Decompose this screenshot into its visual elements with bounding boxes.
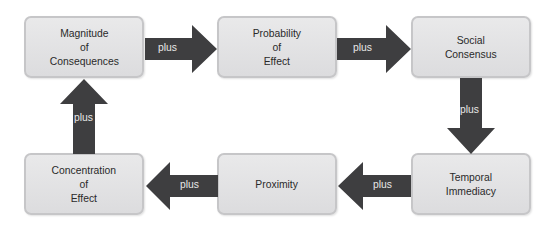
arrow-up-icon: plus <box>60 79 108 154</box>
arrow-left-icon: plus <box>338 162 411 210</box>
node-label: Proximity <box>256 177 299 191</box>
edge-label: plus <box>180 178 199 190</box>
arrow-right-icon: plus <box>337 25 411 73</box>
arrow-down-icon: plus <box>447 78 495 154</box>
node-temporal-immediacy: Temporal Immediacy <box>411 153 531 215</box>
edge-label: plus <box>158 41 177 53</box>
node-label: Social Consensus <box>445 33 497 61</box>
arrow-right-icon: plus <box>145 25 217 73</box>
edge-label: plus <box>353 41 372 53</box>
node-label: Magnitude of Consequences <box>49 26 118 68</box>
node-social-consensus: Social Consensus <box>411 16 531 78</box>
node-label: Probability of Effect <box>253 26 301 68</box>
edge-label: plus <box>74 111 93 123</box>
node-concentration-of-effect: Concentration of Effect <box>24 153 144 215</box>
node-probability-of-effect: Probability of Effect <box>217 16 337 78</box>
edge-label: plus <box>460 103 479 115</box>
node-magnitude-of-consequences: Magnitude of Consequences <box>24 16 144 78</box>
node-proximity: Proximity <box>217 153 337 215</box>
node-label: Concentration of Effect <box>52 163 116 205</box>
arrow-left-icon: plus <box>146 162 218 210</box>
node-label: Temporal Immediacy <box>446 170 496 198</box>
edge-label: plus <box>373 178 392 190</box>
